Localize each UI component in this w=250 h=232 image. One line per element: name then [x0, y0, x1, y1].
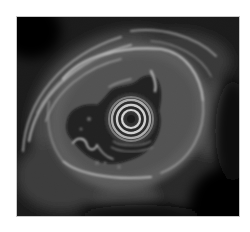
ultrasound-image	[16, 16, 240, 217]
ultrasound-svg	[17, 17, 239, 216]
